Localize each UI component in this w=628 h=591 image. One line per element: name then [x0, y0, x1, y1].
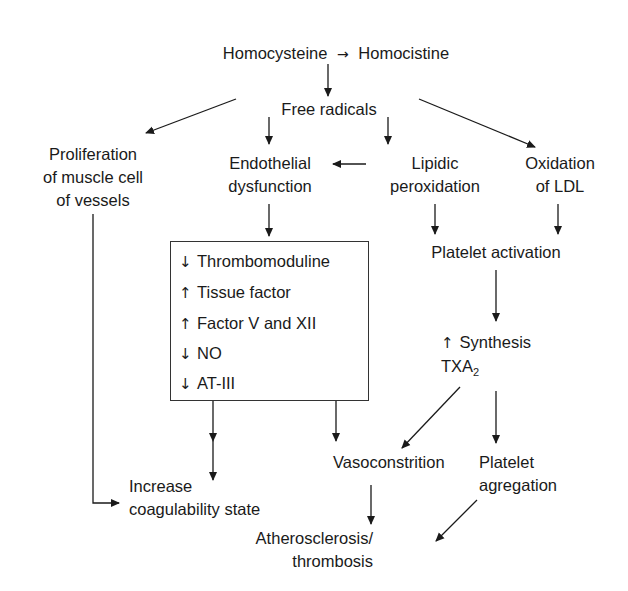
endothelial-node: Endothelial dysfunction	[210, 152, 330, 198]
coag-line-1: Increase	[129, 475, 260, 498]
arrow-up-icon: ↑	[179, 284, 197, 302]
txa-subscript: 2	[473, 366, 479, 378]
atherosclerosis-line-2: thrombosis	[228, 550, 373, 573]
increase-coagulability-node: Increase coagulability state	[129, 475, 260, 521]
oxidation-line-1: Oxidation	[510, 152, 610, 175]
aggregation-line-2: agregation	[479, 474, 557, 497]
lipidic-line-2: peroxidation	[380, 175, 490, 198]
lipidic-node: Lipidic peroxidation	[380, 152, 490, 198]
effect-label: AT-III	[197, 374, 235, 392]
effect-label: Factor V and XII	[197, 314, 316, 332]
arrow-down-icon: ↓	[179, 253, 197, 271]
atherosclerosis-node: Atherosclerosis/ thrombosis	[228, 527, 373, 573]
arrow-proliferation-coag	[93, 214, 119, 503]
arrow-aggregation-atherosclerosis	[436, 500, 477, 541]
effect-label: NO	[197, 344, 222, 362]
free-radicals-node: Free radicals	[264, 98, 394, 121]
coag-line-2: coagulability state	[129, 498, 260, 521]
effect-label: Tissue factor	[197, 283, 291, 301]
effect-row: ↑Tissue factor	[179, 283, 291, 302]
arrow-free-radicals-oxidation	[419, 99, 535, 147]
conversion-arrow-icon: →	[332, 46, 354, 62]
arrow-up-icon: ↑	[179, 315, 197, 333]
proliferation-line-2: of muscle cell	[8, 166, 178, 189]
aggregation-line-1: Platelet	[479, 451, 557, 474]
effect-row: ↓NO	[179, 344, 222, 363]
lipidic-line-1: Lipidic	[380, 152, 490, 175]
homocysteine-row: Homocysteine → Homocistine	[196, 42, 476, 66]
vasoconstriction-node: Vasoconstrition	[333, 451, 445, 474]
homocysteine-label: Homocysteine	[223, 44, 328, 62]
arrow-down-icon: ↓	[179, 375, 197, 393]
endothelial-line-1: Endothelial	[210, 152, 330, 175]
proliferation-node: Proliferation of muscle cell of vessels	[8, 143, 178, 212]
endothelial-line-2: dysfunction	[210, 175, 330, 198]
effect-row: ↑Factor V and XII	[179, 314, 316, 333]
effect-row: ↓AT-III	[179, 374, 235, 393]
proliferation-line-1: Proliferation	[8, 143, 178, 166]
oxidation-line-2: of LDL	[510, 175, 610, 198]
platelet-activation-node: Platelet activation	[416, 241, 576, 264]
synthesis-txa2-node: ↑Synthesis TXA2	[441, 331, 531, 378]
effect-row: ↓Thrombomoduline	[179, 252, 330, 271]
atherosclerosis-line-1: Atherosclerosis/	[228, 527, 373, 550]
effect-label: Thrombomoduline	[197, 252, 330, 270]
arrow-synthesis-vasoconstriction	[402, 387, 460, 448]
arrow-free-radicals-proliferation	[146, 99, 236, 133]
homocistine-label: Homocistine	[358, 44, 449, 62]
arrow-down-icon: ↓	[179, 345, 197, 363]
synthesis-label: Synthesis	[460, 333, 532, 351]
txa-label: TXA	[441, 357, 473, 375]
arrow-up-icon: ↑	[441, 334, 460, 352]
oxidation-ldl-node: Oxidation of LDL	[510, 152, 610, 198]
endothelial-effects-box: ↓Thrombomoduline ↑Tissue factor ↑Factor …	[170, 241, 369, 401]
proliferation-line-3: of vessels	[8, 189, 178, 212]
platelet-aggregation-node: Platelet agregation	[479, 451, 557, 497]
